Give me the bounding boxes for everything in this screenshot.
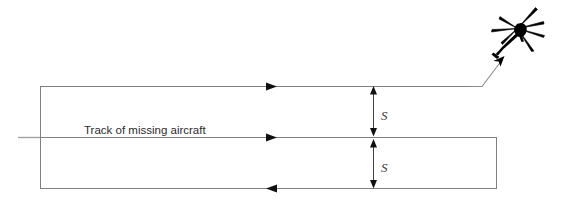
search-pattern-diagram: S S Track of missing aircraft	[0, 0, 569, 204]
separation-upper-arrow-up-icon	[370, 86, 377, 95]
track-label: Track of missing aircraft	[84, 124, 206, 136]
separation-lower-label: S	[381, 160, 388, 175]
separation-lower-arrow-down-icon	[370, 180, 377, 189]
helicopter-egress-path	[470, 60, 502, 87]
leg-direction-arrows	[266, 83, 277, 193]
center-leg-arrow-right-icon	[266, 134, 277, 142]
separation-upper-label: S	[381, 108, 388, 123]
helicopter-icon	[492, 8, 545, 60]
separation-upper-arrow-down-icon	[370, 128, 377, 137]
diagram-canvas: S S Track of missing aircraft	[0, 0, 569, 204]
separation-lower-arrow-up-icon	[370, 139, 377, 148]
separation-upper-dimension: S	[370, 86, 388, 137]
upper-leg-arrow-right-icon	[266, 83, 277, 91]
lower-leg-arrow-left-icon	[266, 185, 277, 193]
separation-lower-dimension: S	[370, 139, 388, 189]
